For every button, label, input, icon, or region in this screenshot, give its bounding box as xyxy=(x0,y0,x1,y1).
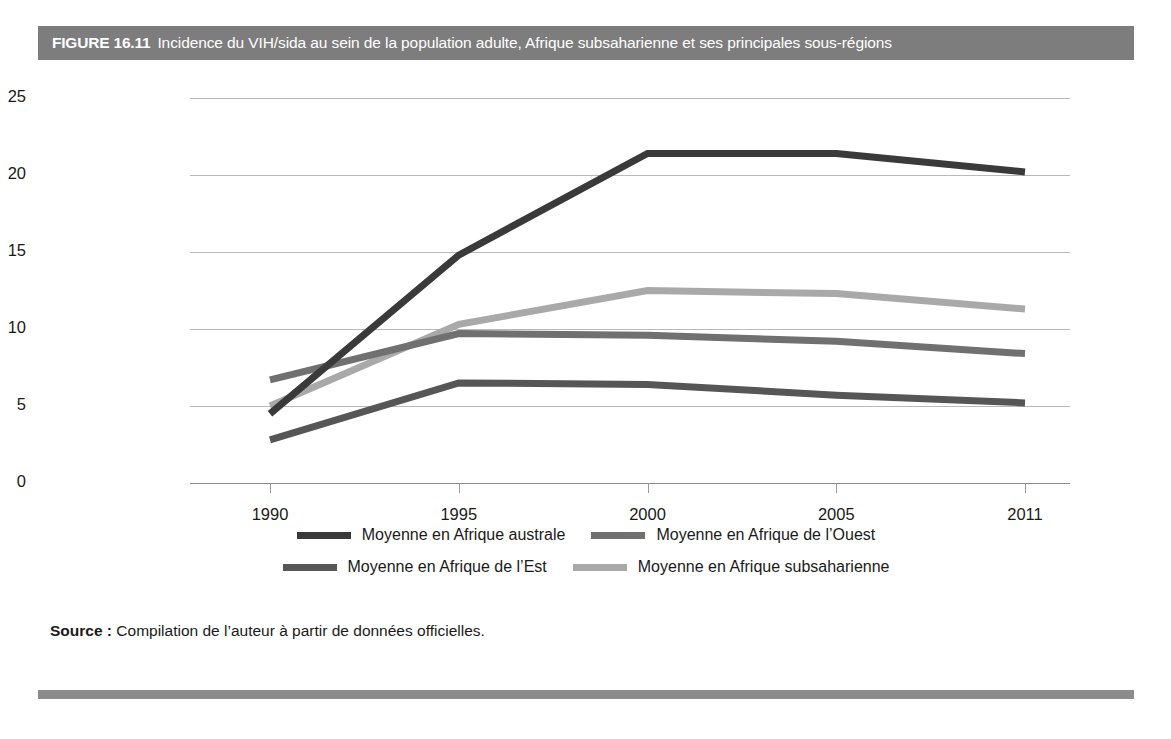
y-tick-label-20: 20 xyxy=(0,164,26,183)
legend-swatch-icon xyxy=(297,532,351,539)
figure-number-label: FIGURE 16.11 xyxy=(52,34,150,51)
y-tick-label-0: 0 xyxy=(0,472,26,491)
source-text: Compilation de l’auteur à partir de donn… xyxy=(116,622,485,639)
legend-item[interactable]: Moyenne en Afrique subsaharienne xyxy=(573,558,890,576)
y-tick-label-25: 25 xyxy=(0,87,26,106)
plot-canvas: 0510152025 19901995200020052011 xyxy=(190,98,1070,483)
legend-swatch-icon xyxy=(573,564,627,571)
legend-label: Moyenne en Afrique de l’Ouest xyxy=(656,526,875,544)
series-line-0 xyxy=(270,153,1025,413)
x-tick-1990 xyxy=(270,483,271,493)
chart-area: 0510152025 19901995200020052011 xyxy=(38,78,1134,508)
legend-row-1: Moyenne en Afrique australeMoyenne en Af… xyxy=(38,520,1134,550)
figure-header-text: FIGURE 16.11Incidence du VIH/sida au sei… xyxy=(38,34,892,52)
legend-item[interactable]: Moyenne en Afrique de l’Est xyxy=(283,558,547,576)
legend-swatch-icon xyxy=(283,564,337,571)
x-axis-line xyxy=(190,483,1070,484)
x-tick-1995 xyxy=(459,483,460,493)
figure-container: FIGURE 16.11Incidence du VIH/sida au sei… xyxy=(0,0,1171,739)
figure-header-bar: FIGURE 16.11Incidence du VIH/sida au sei… xyxy=(38,26,1134,60)
series-line-2 xyxy=(270,383,1025,440)
legend-label: Moyenne en Afrique australe xyxy=(362,526,566,544)
legend-item[interactable]: Moyenne en Afrique australe xyxy=(297,526,566,544)
y-tick-label-5: 5 xyxy=(0,395,26,414)
legend-label: Moyenne en Afrique subsaharienne xyxy=(638,558,890,576)
y-tick-label-15: 15 xyxy=(0,241,26,260)
bottom-rule xyxy=(38,690,1134,699)
source-note: Source : Compilation de l’auteur à parti… xyxy=(50,622,485,640)
legend-swatch-icon xyxy=(591,532,645,539)
x-tick-2011 xyxy=(1025,483,1026,493)
x-tick-2005 xyxy=(836,483,837,493)
chart-legend: Moyenne en Afrique australeMoyenne en Af… xyxy=(38,520,1134,592)
x-tick-2000 xyxy=(648,483,649,493)
legend-label: Moyenne en Afrique de l’Est xyxy=(348,558,547,576)
figure-title: Incidence du VIH/sida au sein de la popu… xyxy=(157,34,892,51)
series-lines-group xyxy=(190,98,1070,483)
legend-item[interactable]: Moyenne en Afrique de l’Ouest xyxy=(591,526,875,544)
y-tick-label-10: 10 xyxy=(0,318,26,337)
source-label: Source : xyxy=(50,622,112,639)
legend-row-2: Moyenne en Afrique de l’EstMoyenne en Af… xyxy=(38,552,1134,582)
